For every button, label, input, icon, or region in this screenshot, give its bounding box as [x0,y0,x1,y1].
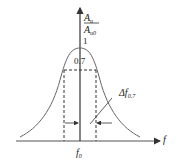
y-label-denominator: Au0 [84,25,96,36]
center-frequency-label: f0 [76,148,82,159]
level-label: 0.7 [74,57,85,66]
bandwidth-leader [90,98,112,124]
y-label-numerator: Au [84,13,93,24]
peak-label: 1 [83,37,88,46]
x-axis-label: f [163,135,166,145]
bandwidth-label: Δf0.7 [119,88,135,99]
resonance-curve-diagram: Au Au0 1 0.7 Δf0.7 f f0 [0,0,181,163]
